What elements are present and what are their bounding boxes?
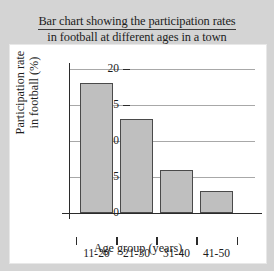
y-axis-tick: 20: [123, 69, 130, 70]
chart-title-line-2: in football at different ages in a town: [47, 30, 226, 46]
y-axis-tick-label: 5: [113, 170, 119, 182]
bar: [120, 119, 153, 213]
bar: [80, 83, 113, 213]
gridline: [70, 69, 255, 70]
y-axis-title: Participation rate in football (%): [14, 33, 41, 153]
y-axis-tick-label: 0: [113, 206, 119, 218]
plot-area: 05101520 11-2021-3031-4041-50: [70, 69, 255, 213]
y-axis-tick-label: 20: [108, 62, 120, 74]
y-axis-tick: 0: [123, 213, 130, 214]
bar: [200, 191, 233, 213]
bar: [160, 170, 193, 213]
y-axis-tick: 15: [123, 105, 130, 106]
y-axis-title-line-2: in football (%): [28, 33, 42, 153]
x-axis-title: Age group (years): [10, 241, 266, 256]
chart-title-line-1: Bar chart showing the participation rate…: [38, 14, 235, 30]
chart-figure-panel: Participation rate in football (%) 05101…: [10, 45, 266, 263]
x-axis-line: [62, 213, 262, 214]
y-axis-title-line-1: Participation rate: [14, 33, 28, 153]
